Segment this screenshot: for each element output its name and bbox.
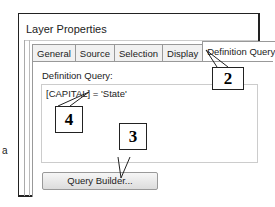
callout-4: 4 — [55, 106, 83, 133]
callout-2: 2 — [212, 67, 244, 90]
callout-3: 3 — [119, 123, 147, 150]
callout-pointers — [0, 0, 275, 207]
